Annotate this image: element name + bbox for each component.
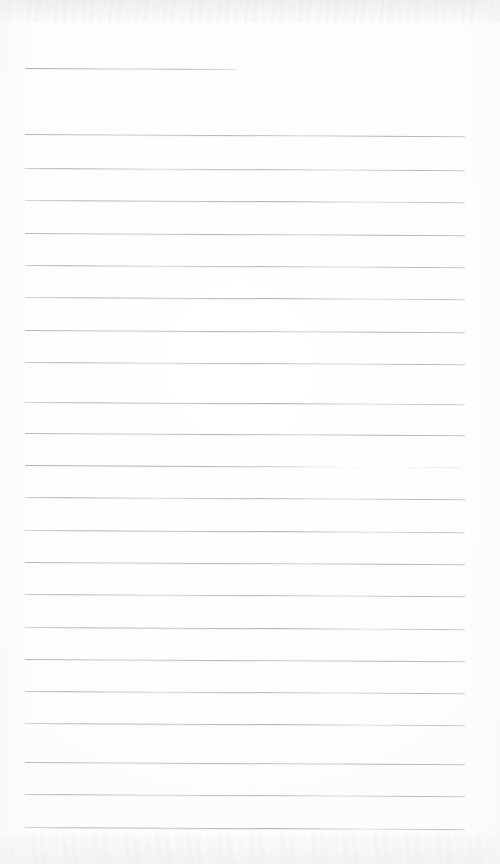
ruled-line	[25, 465, 465, 468]
ruled-line	[25, 433, 465, 436]
ruled-line	[25, 562, 465, 565]
ruled-line	[25, 659, 465, 662]
ruled-lines-container	[0, 0, 500, 864]
ruled-line	[25, 762, 465, 765]
ruled-line	[25, 168, 465, 171]
scanned-page	[0, 0, 500, 864]
ruled-line	[25, 627, 465, 630]
ruled-line	[25, 402, 465, 405]
scan-edge-noise-bottom	[0, 834, 500, 864]
ruled-line	[25, 594, 465, 597]
ruled-line	[25, 200, 465, 203]
ruled-line	[25, 530, 465, 533]
ruled-line	[25, 297, 465, 300]
ruled-line	[25, 691, 465, 694]
ruled-line	[25, 134, 465, 137]
ruled-line	[25, 362, 465, 365]
ruled-line	[25, 723, 465, 726]
ruled-line	[25, 794, 465, 797]
ruled-line	[25, 265, 465, 268]
ruled-line	[25, 330, 465, 333]
ruled-line	[25, 68, 237, 70]
ruled-line	[25, 497, 465, 500]
ruled-line	[25, 233, 465, 236]
ruled-line	[25, 827, 465, 830]
